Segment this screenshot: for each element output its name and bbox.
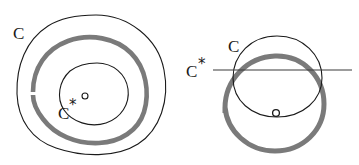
right-thin-circle-label: C xyxy=(228,37,240,56)
right-thick-circle-star-icon: * xyxy=(198,55,206,73)
left-inner-star-icon: * xyxy=(69,96,77,114)
left-outer-label: C xyxy=(13,24,25,43)
right-thin-circle xyxy=(233,36,322,117)
right-point-marker-icon xyxy=(273,110,280,117)
left-middle-highlight-contour xyxy=(33,37,147,143)
left-point-marker-icon xyxy=(82,93,88,99)
left-panel: C C * xyxy=(13,15,166,155)
left-inner-contour xyxy=(59,63,128,125)
diagram-canvas: C C * C C * xyxy=(0,0,359,165)
figure-root: C C * C C * xyxy=(0,0,359,165)
right-thick-circle-label: C xyxy=(186,62,198,81)
left-inner-label: C xyxy=(58,104,70,123)
right-panel: C C * xyxy=(186,36,352,151)
